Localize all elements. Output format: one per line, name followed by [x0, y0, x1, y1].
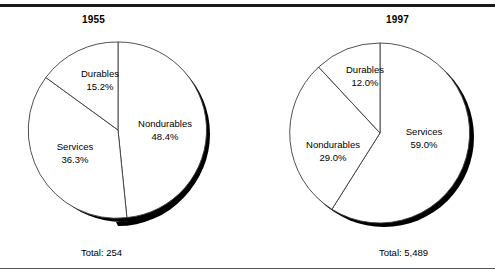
pie-label-services-pct: 59.0% [376, 139, 472, 152]
pie-label-nondurables: Nondurables 48.4% [117, 118, 213, 143]
pie-label-services-name: Services [406, 126, 442, 137]
pie-label-services: Services 36.3% [27, 141, 123, 166]
pie-label-nondurables-name: Nondurables [306, 139, 360, 150]
pie-label-nondurables-name: Nondurables [138, 118, 192, 129]
pie-panel-1997: 1997 Durables 12.0% Nondurables 29.0% Se… [248, 0, 495, 279]
pie-label-durables-name: Durables [346, 64, 384, 75]
pie-label-nondurables-pct: 48.4% [117, 131, 213, 144]
panel-total: Total: 5,489 [280, 247, 495, 258]
chart-figure: 1955 Durables 15.2% Services 36.3% Nondu… [0, 0, 495, 279]
pie-label-durables-pct: 15.2% [52, 81, 148, 94]
pie-label-nondurables-pct: 29.0% [285, 152, 381, 165]
pie-label-services-pct: 36.3% [27, 154, 123, 167]
pie-label-durables-name: Durables [81, 68, 119, 79]
pie-label-durables-pct: 12.0% [317, 77, 413, 90]
pie-panel-1955: 1955 Durables 15.2% Services 36.3% Nondu… [0, 0, 247, 279]
pie-label-durables: Durables 15.2% [52, 68, 148, 93]
pie-label-services-name: Services [57, 141, 93, 152]
pie-label-nondurables: Nondurables 29.0% [285, 139, 381, 164]
pie-label-durables: Durables 12.0% [317, 64, 413, 89]
pie-label-services: Services 59.0% [376, 126, 472, 151]
panel-total: Total: 254 [0, 247, 225, 258]
